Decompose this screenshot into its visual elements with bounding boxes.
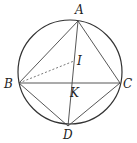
label-B: B <box>3 77 13 91</box>
segment-AD <box>68 21 78 126</box>
segment-BD <box>19 83 68 126</box>
geometry-diagram: A B C D I K <box>0 0 137 143</box>
segment-AB <box>19 21 78 83</box>
segment-AC <box>78 21 120 83</box>
label-A: A <box>74 3 84 17</box>
label-I: I <box>76 54 82 68</box>
label-K: K <box>69 86 80 100</box>
label-C: C <box>123 77 132 91</box>
label-D: D <box>62 128 73 142</box>
segment-BI-dashed <box>19 61 74 83</box>
